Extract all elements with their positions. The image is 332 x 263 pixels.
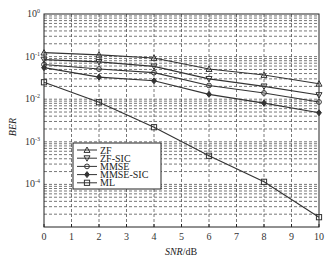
legend-label: ML xyxy=(100,177,115,188)
x-tick-label: 8 xyxy=(262,231,267,242)
x-tick-label: 4 xyxy=(152,231,157,242)
x-tick-label: 7 xyxy=(234,231,239,242)
y-tick-label: 100 xyxy=(27,8,40,19)
x-axis-label-unit: /dB xyxy=(183,246,198,257)
y-tick-label: 10-2 xyxy=(25,93,40,104)
data-point-marker xyxy=(207,91,212,97)
grid-lines xyxy=(44,14,319,227)
y-tick-label: 10-3 xyxy=(25,136,40,147)
legend: ZFZF-SICMMSEMMSE-SICML xyxy=(73,143,161,189)
y-tick-label: 10-4 xyxy=(25,178,40,189)
series-mmse xyxy=(42,62,322,104)
x-tick-label: 3 xyxy=(124,231,129,242)
y-axis-ticks: 10010-110-210-310-4 xyxy=(25,8,40,189)
y-tick-label: 10-1 xyxy=(25,51,40,62)
y-axis-label: BER xyxy=(7,118,18,136)
x-tick-label: 1 xyxy=(69,231,74,242)
x-tick-label: 9 xyxy=(289,231,294,242)
data-point-marker xyxy=(317,110,322,116)
x-tick-label: 2 xyxy=(97,231,102,242)
x-tick-label: 10 xyxy=(314,231,324,242)
ber-vs-snr-chart: 012345678910 10010-110-210-310-4 ZFZF-SI… xyxy=(0,0,332,263)
x-tick-label: 5 xyxy=(179,231,184,242)
x-axis-label-var: SNR xyxy=(165,246,183,257)
x-tick-label: 6 xyxy=(207,231,212,242)
x-axis-label: SNR/dB xyxy=(165,246,198,257)
x-tick-label: 0 xyxy=(42,231,47,242)
